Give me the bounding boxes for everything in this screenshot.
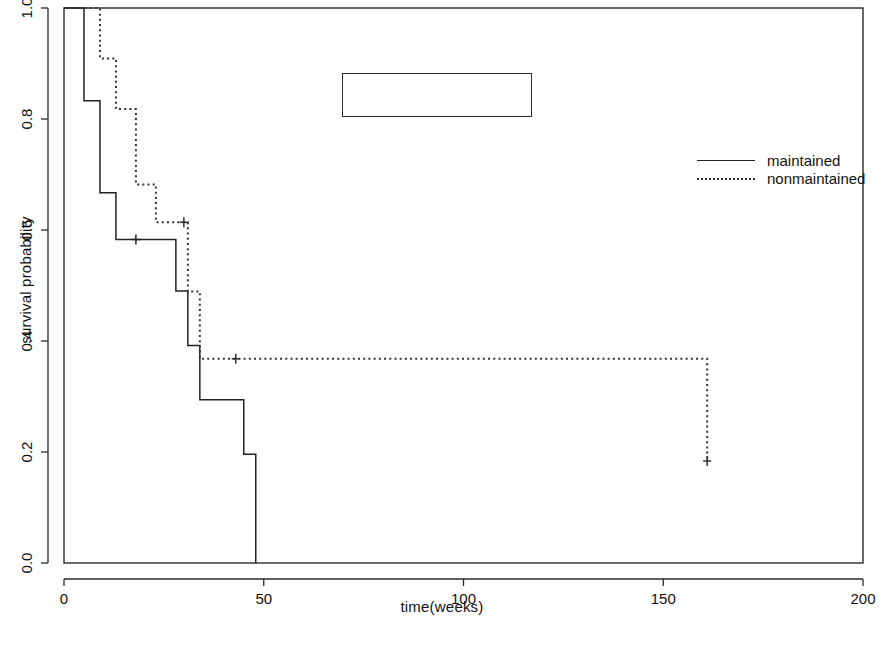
x-axis-title: time(weeks)	[0, 598, 884, 615]
legend-item-nonmaintained: nonmaintained	[697, 168, 865, 188]
censoring-mark	[132, 234, 140, 244]
censoring-marks	[132, 217, 711, 466]
censoring-mark	[180, 217, 188, 227]
y-axis-title: survival probability	[17, 0, 37, 560]
legend-line-sample-solid-icon	[697, 154, 755, 166]
censoring-mark	[232, 354, 240, 364]
y-axis-ticks	[41, 8, 48, 563]
legend-label-maintained: maintained	[767, 152, 840, 169]
survival-plot-figure: 050100150200 0.00.20.40.60.81.0 time(wee…	[0, 0, 884, 650]
legend: maintained nonmaintained	[342, 73, 532, 117]
legend-line-sample-dotted-icon	[697, 172, 755, 184]
x-axis-ticks	[64, 579, 863, 586]
survival-curve-maintained	[64, 8, 256, 563]
censoring-mark	[703, 456, 711, 466]
legend-label-nonmaintained: nonmaintained	[767, 170, 865, 187]
legend-item-maintained: maintained	[697, 150, 840, 170]
